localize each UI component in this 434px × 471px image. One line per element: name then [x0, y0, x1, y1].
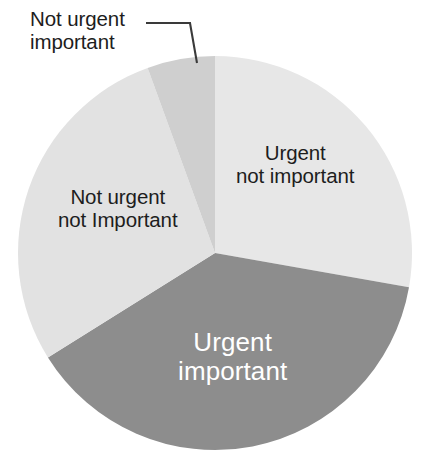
- callout-leader-line: [146, 23, 197, 63]
- pie-chart-svg: [0, 0, 434, 471]
- pie-chart-figure: Not urgent important Urgent not importan…: [0, 0, 434, 471]
- pie-slice-urgent-not-important[interactable]: [215, 56, 412, 287]
